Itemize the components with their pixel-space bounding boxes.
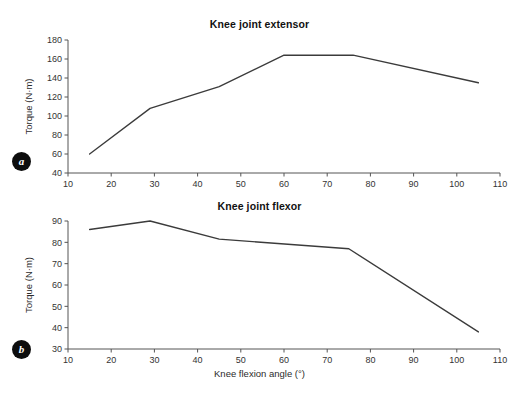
y-axis-title: Torque (N·m) [23, 79, 34, 135]
y-axis-title: Torque (N·m) [23, 257, 34, 313]
x-tick-label: 10 [63, 179, 73, 189]
x-tick-label: 60 [279, 355, 289, 365]
y-tick-label: 140 [47, 73, 62, 83]
y-tick-label: 80 [52, 130, 62, 140]
x-tick-label: 100 [449, 179, 464, 189]
x-tick-label: 20 [106, 179, 116, 189]
y-tick-label: 80 [52, 238, 62, 248]
x-tick-label: 40 [193, 355, 203, 365]
panel-label-b: b [12, 340, 31, 359]
x-tick-label: 90 [409, 355, 419, 365]
x-tick-label: 70 [322, 355, 332, 365]
x-tick-label: 50 [236, 355, 246, 365]
y-tick-label: 60 [52, 149, 62, 159]
y-tick-label: 30 [52, 344, 62, 354]
y-tick-label: 60 [52, 280, 62, 290]
data-series-line [90, 221, 479, 332]
x-tick-label: 80 [365, 355, 375, 365]
x-tick-label: 70 [322, 179, 332, 189]
panel-a-plot: 4060801001201401601801020304050607080901… [0, 0, 519, 192]
x-tick-label: 20 [106, 355, 116, 365]
y-tick-label: 120 [47, 92, 62, 102]
x-tick-label: 80 [365, 179, 375, 189]
x-axis-title: Knee flexion angle (°) [0, 368, 519, 379]
chart-panel-a: Knee joint extensor 40608010012014016018… [0, 0, 519, 192]
y-tick-label: 180 [47, 35, 62, 45]
chart-panel-b: Knee joint flexor 3040506070809010203040… [0, 192, 519, 396]
x-tick-label: 110 [493, 179, 507, 189]
x-tick-label: 110 [493, 355, 507, 365]
y-tick-label: 70 [52, 259, 62, 269]
y-tick-label: 50 [52, 302, 62, 312]
x-tick-label: 60 [279, 179, 289, 189]
y-tick-label: 100 [47, 111, 62, 121]
data-series-line [90, 55, 479, 154]
y-tick-label: 40 [52, 168, 62, 178]
x-tick-label: 30 [149, 355, 159, 365]
y-tick-label: 90 [52, 216, 62, 226]
x-tick-label: 40 [193, 179, 203, 189]
panel-label-a: a [12, 152, 31, 171]
y-tick-label: 160 [47, 54, 62, 64]
panel-b-plot: 30405060708090102030405060708090100110To… [0, 192, 519, 396]
x-tick-label: 30 [149, 179, 159, 189]
x-tick-label: 90 [409, 179, 419, 189]
x-tick-label: 50 [236, 179, 246, 189]
x-tick-label: 10 [63, 355, 73, 365]
x-tick-label: 100 [449, 355, 464, 365]
figure-knee-torque: Knee joint extensor 40608010012014016018… [0, 0, 519, 396]
y-tick-label: 40 [52, 323, 62, 333]
